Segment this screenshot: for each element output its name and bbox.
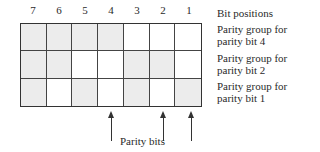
row-label-line: Parity group for bbox=[217, 80, 287, 92]
grid-cell-p1-b7 bbox=[21, 79, 47, 106]
parity-grid bbox=[20, 23, 202, 107]
grid-cell-p1-b5 bbox=[72, 79, 98, 106]
row-label-line: Parity group for bbox=[217, 23, 287, 35]
bit-positions-label: Bit positions bbox=[217, 7, 273, 19]
grid-cell-p1-b6 bbox=[47, 79, 73, 106]
bit-position-4: 4 bbox=[98, 4, 124, 16]
bit-position-3: 3 bbox=[124, 4, 150, 16]
row-label-parity-1: Parity group for parity bit 1 bbox=[217, 80, 287, 104]
arrow-up-icon bbox=[111, 113, 112, 141]
bit-position-7: 7 bbox=[20, 4, 46, 16]
grid-cell-p2-b1 bbox=[175, 51, 201, 78]
grid-cell-p1-b4 bbox=[98, 79, 124, 106]
bit-position-2: 2 bbox=[150, 4, 176, 16]
grid-cell-p1-b3 bbox=[124, 79, 150, 106]
grid-cell-p1-b1 bbox=[175, 79, 201, 106]
row-label-line: Parity group for bbox=[217, 52, 287, 64]
grid-cell-p4-b5 bbox=[72, 24, 98, 51]
bit-position-5: 5 bbox=[72, 4, 98, 16]
parity-bits-caption: Parity bits bbox=[120, 135, 165, 147]
row-label-parity-2: Parity group for parity bit 2 bbox=[217, 52, 287, 76]
grid-cell-p4-b7 bbox=[21, 24, 47, 51]
grid-cell-p4-b6 bbox=[47, 24, 73, 51]
grid-cell-p2-b3 bbox=[124, 51, 150, 78]
grid-cell-p1-b2 bbox=[150, 79, 176, 106]
grid-cell-p4-b3 bbox=[124, 24, 150, 51]
grid-cell-p2-b4 bbox=[98, 51, 124, 78]
grid-cell-p2-b7 bbox=[21, 51, 47, 78]
grid-cell-p4-b1 bbox=[175, 24, 201, 51]
grid-cell-p2-b2 bbox=[150, 51, 176, 78]
arrow-up-icon bbox=[191, 113, 192, 141]
row-label-line: parity bit 2 bbox=[217, 64, 287, 76]
grid-cell-p2-b6 bbox=[47, 51, 73, 78]
row-label-line: parity bit 1 bbox=[217, 92, 287, 104]
grid-cell-p4-b4 bbox=[98, 24, 124, 51]
row-label-parity-4: Parity group for parity bit 4 bbox=[217, 23, 287, 47]
grid-cell-p4-b2 bbox=[150, 24, 176, 51]
row-label-line: parity bit 4 bbox=[217, 35, 287, 47]
grid-cell-p2-b5 bbox=[72, 51, 98, 78]
bit-position-1: 1 bbox=[176, 4, 202, 16]
bit-position-6: 6 bbox=[46, 4, 72, 16]
